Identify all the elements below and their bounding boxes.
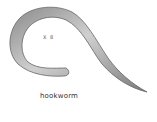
figure-caption: hookworm [0,92,118,100]
hookworm-illustration [0,0,157,122]
magnification-label: X 8 [43,34,54,40]
